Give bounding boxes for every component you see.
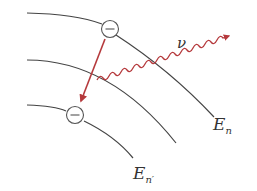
energy-label-upper-sub: n [225,125,231,136]
energy-level-upper [27,13,214,117]
electron-lower [67,107,84,124]
photon-wave [97,36,229,80]
transition-arrow [81,39,105,101]
energy-label-upper: En [213,114,232,134]
energy-label-lower-main: E [133,163,145,183]
energy-label-upper-main: E [213,114,225,134]
energy-diagram [0,0,257,191]
energy-label-lower: En′ [133,163,154,183]
energy-label-lower-sub: n′ [145,174,154,185]
electron-upper [102,21,119,38]
photon-frequency-label: ν [177,34,186,52]
